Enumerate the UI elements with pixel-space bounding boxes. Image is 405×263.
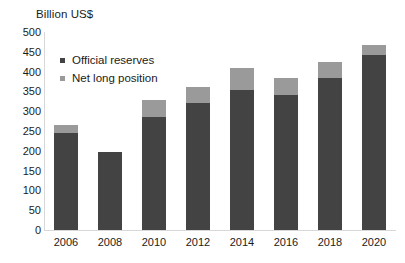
bar-segment-net-long-position[interactable] — [318, 62, 342, 78]
y-axis-tick-label: 50 — [3, 205, 41, 216]
bar-segment-net-long-position[interactable] — [54, 125, 78, 133]
bar-segment-official-reserves[interactable] — [186, 103, 210, 230]
y-axis-tick-label: 500 — [3, 27, 41, 38]
x-axis-tick-label: 2014 — [220, 236, 264, 248]
bar-group[interactable] — [54, 125, 78, 230]
bar-group[interactable] — [230, 68, 254, 230]
x-axis-tick-label: 2012 — [176, 236, 220, 248]
legend-item[interactable]: Net long position — [60, 70, 158, 86]
legend-item[interactable]: Official reserves — [60, 52, 158, 68]
chart-legend: Official reservesNet long position — [60, 52, 158, 88]
x-axis-tick-label: 2010 — [132, 236, 176, 248]
x-axis-tick-label: 2016 — [264, 236, 308, 248]
y-axis-tick-label: 100 — [3, 185, 41, 196]
y-axis-tick-label: 400 — [3, 66, 41, 77]
bar-chart: Billion US$ 5004504003503002502001501005… — [0, 0, 405, 263]
x-axis-tick-label: 2006 — [44, 236, 88, 248]
x-axis-tick-label: 2020 — [352, 236, 396, 248]
y-axis-tick-label: 350 — [3, 86, 41, 97]
y-axis-tick-label: 200 — [3, 145, 41, 156]
y-axis-tick-label: 300 — [3, 106, 41, 117]
legend-swatch-icon — [60, 76, 65, 81]
bar-segment-official-reserves[interactable] — [230, 90, 254, 230]
bar-segment-net-long-position[interactable] — [186, 87, 210, 103]
y-axis-tick-label: 0 — [3, 225, 41, 236]
x-axis-tick-label: 2008 — [88, 236, 132, 248]
bar-segment-official-reserves[interactable] — [274, 95, 298, 230]
bar-group[interactable] — [274, 78, 298, 230]
y-axis-tick-label: 150 — [3, 165, 41, 176]
bar-group[interactable] — [186, 87, 210, 230]
legend-item-label: Net long position — [72, 72, 158, 84]
bar-segment-official-reserves[interactable] — [54, 133, 78, 230]
y-axis-tick-labels: 500450400350300250200150100500 — [0, 0, 41, 263]
chart-axis-title: Billion US$ — [36, 8, 93, 21]
legend-item-label: Official reserves — [72, 54, 154, 66]
bar-group[interactable] — [142, 100, 166, 230]
bar-segment-official-reserves[interactable] — [318, 78, 342, 230]
bar-segment-net-long-position[interactable] — [362, 45, 386, 55]
bar-segment-official-reserves[interactable] — [362, 55, 386, 230]
bar-group[interactable] — [98, 152, 122, 230]
bar-segment-net-long-position[interactable] — [142, 100, 166, 117]
bar-segment-net-long-position[interactable] — [274, 78, 298, 95]
y-axis-tick-label: 250 — [3, 126, 41, 137]
legend-swatch-icon — [60, 58, 65, 63]
bar-segment-net-long-position[interactable] — [230, 68, 254, 90]
bar-group[interactable] — [318, 62, 342, 230]
x-axis-tick-label: 2018 — [308, 236, 352, 248]
x-axis-line — [44, 230, 396, 231]
bar-segment-official-reserves[interactable] — [98, 152, 122, 230]
y-axis-tick-label: 450 — [3, 46, 41, 57]
bar-group[interactable] — [362, 45, 386, 230]
bar-segment-official-reserves[interactable] — [142, 117, 166, 230]
